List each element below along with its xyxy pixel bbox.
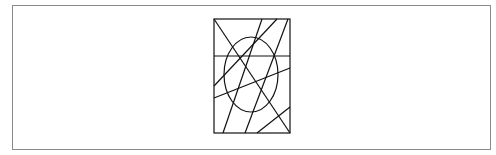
line-segment <box>214 68 290 98</box>
intersecting-lines <box>214 19 290 133</box>
line-segment <box>223 19 262 133</box>
geometric-figure <box>0 0 496 155</box>
line-segment <box>214 19 277 86</box>
line-segment <box>257 107 290 133</box>
